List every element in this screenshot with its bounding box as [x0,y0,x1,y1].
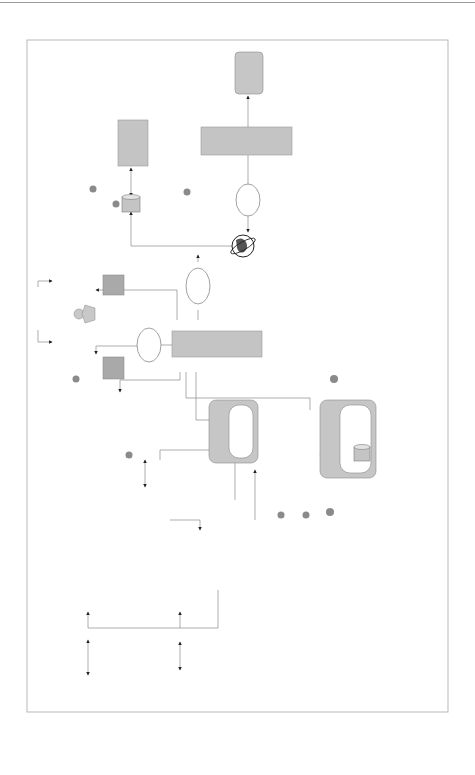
message-center-application [103,275,124,295]
step-12-label [330,375,338,383]
step-6-response-label [303,512,310,519]
messages-repository [354,445,370,462]
step-7-label [90,186,97,193]
trading-application-top [103,357,124,379]
step-2-top-label [126,452,133,459]
matching-application-b [235,52,263,94]
architecture-diagram [0,0,475,775]
clearing-corporation-globe [229,235,257,257]
internet-cloud-right [236,184,260,216]
step-1-label [73,376,80,383]
dealer-b [201,127,292,155]
uddi-registry-b2bi-top [113,195,141,213]
step-5-label [278,512,285,519]
fixed-income-trader [74,305,95,323]
j2ee-message-broker-server [320,400,376,478]
step-11-label [326,508,334,516]
connectors [38,96,352,675]
j2ee-trading-server [209,400,258,463]
wsdl-binding-top [118,120,148,166]
dealer-a [172,331,262,357]
internet-cloud-left [137,328,161,362]
internet-cloud-middle [186,268,210,304]
step-8-label [184,189,191,196]
